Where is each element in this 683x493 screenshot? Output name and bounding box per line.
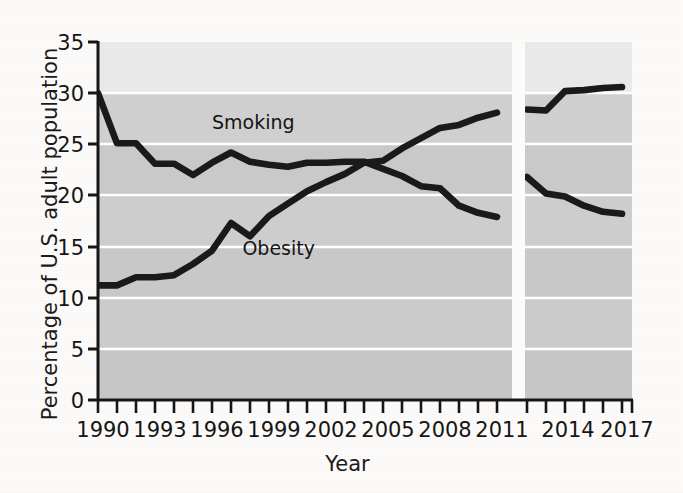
chart-svg: 35 30 25 20 15 10 5 0	[0, 0, 683, 493]
x-tick-label: 1999	[247, 418, 300, 442]
series-label-obesity: Obesity	[242, 237, 315, 259]
x-axis-title-text: Year	[325, 452, 369, 476]
y-tick-label: 5	[71, 338, 84, 362]
x-axis-title: Year	[0, 452, 683, 476]
x-tick-label: 2014	[541, 418, 594, 442]
x-tick-label: 2011	[475, 418, 528, 442]
x-tick-label: 1990	[76, 418, 129, 442]
x-tick-marks	[98, 400, 632, 413]
plot-background	[98, 42, 632, 400]
axis-break-band	[512, 40, 525, 401]
chart-figure: 35 30 25 20 15 10 5 0	[0, 0, 683, 493]
x-tick-label: 2008	[418, 418, 471, 442]
y-axis-title: Percentage of U.S. adult population	[38, 38, 62, 430]
x-tick-labels: 1990 1993 1996 1999 2002 2005 2008 2011 …	[76, 418, 653, 442]
x-tick-label: 1993	[133, 418, 186, 442]
x-tick-label: 1996	[190, 418, 243, 442]
x-tick-label: 2017	[600, 418, 653, 442]
series-label-smoking: Smoking	[212, 111, 295, 133]
x-tick-label: 2002	[304, 418, 357, 442]
y-tick-label: 0	[71, 389, 84, 413]
x-tick-label: 2005	[361, 418, 414, 442]
